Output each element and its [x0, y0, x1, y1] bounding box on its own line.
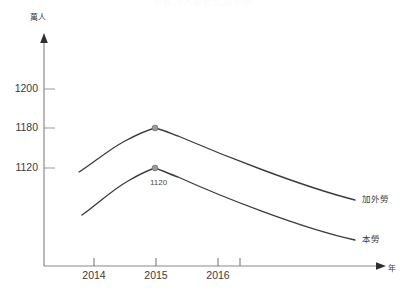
series-label-benlao: 本勞: [362, 232, 380, 244]
series-label-waijilao: 加外勞: [362, 192, 389, 204]
y-axis-unit-label: 萬人: [30, 11, 46, 22]
y-tick-label-1120: 1120: [2, 161, 38, 173]
chart-plot-area: [0, 0, 405, 291]
chart-container: 勞動力人數變化趨勢圖 萬人 年 1200 11: [0, 0, 405, 291]
x-tick-label-2016: 2016: [198, 269, 238, 281]
x-axis-arrow-icon: [376, 262, 386, 270]
y-tick-label-1200: 1200: [2, 82, 38, 94]
series-line-benlao: [82, 168, 355, 240]
data-point-annotation-1120: 1120: [150, 178, 167, 187]
y-axis-arrow-icon: [40, 33, 48, 43]
series-line-waijilao: [79, 128, 355, 200]
peak-marker-benlao: [152, 165, 158, 171]
x-tick-marks: [94, 258, 240, 266]
x-tick-label-2014: 2014: [74, 269, 114, 281]
y-tick-label-1180: 1180: [2, 121, 38, 133]
y-tick-marks: [44, 89, 55, 168]
x-axis-unit-label: 年: [388, 262, 396, 273]
peak-marker-waijilao: [152, 125, 158, 131]
x-tick-label-2015: 2015: [136, 269, 176, 281]
